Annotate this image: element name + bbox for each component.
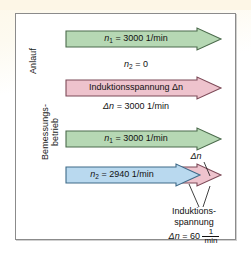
delta-n-anlauf-symbol: Δn (103, 101, 114, 111)
figure-frame: Anlauf n1 = 3000 1/min n2 = 0 Induktions… (15, 13, 236, 240)
delta-n-formula-unit: 1 min (202, 228, 219, 246)
delta-n-formula: Δn = 60 1 min (152, 228, 236, 246)
delta-n-formula-unit-denominator: min (202, 237, 219, 245)
n2-arrow-bemessung-label: n2 = 2940 1/min (66, 169, 178, 179)
n1-equals-anlauf: = (115, 33, 120, 43)
figure-page: Anlauf n1 = 3000 1/min n2 = 0 Induktions… (0, 0, 251, 255)
n2-zero-equals: = (135, 59, 140, 69)
n2-zero-text: n2 = 0 (66, 59, 206, 69)
delta-n-anlauf-equals: = (117, 101, 122, 111)
n1-equals-bemessung: = (115, 133, 120, 143)
induktionsspannung-callout-line1: Induktions- (154, 206, 234, 216)
delta-n-formula-symbol: Δn (169, 231, 180, 241)
section-label-bemessungsbetrieb-line2: betrieb (50, 95, 60, 169)
n1-subscript-anlauf: 1 (109, 37, 113, 44)
n1-value-bemessung: 3000 1/min (123, 133, 168, 143)
n1-value-anlauf: 3000 1/min (123, 33, 168, 43)
n2-subscript-bemessung: 2 (95, 173, 99, 180)
page-top-band (0, 0, 251, 10)
n1-arrow-bemessung-label: n1 = 3000 1/min (66, 133, 206, 143)
induktionsspannung-callout-line2: spannung (154, 217, 234, 227)
section-label-anlauf: Anlauf (28, 31, 38, 91)
induktionsspannung-arrow-anlauf-label: Induktionsspannung Δn (66, 82, 206, 92)
section-label-bemessungsbetrieb: Bemessungs- betrieb (40, 95, 60, 169)
n2-equals-bemessung: = (101, 169, 106, 179)
delta-n-formula-value: 60 (190, 231, 200, 241)
diagram-canvas: Anlauf n1 = 3000 1/min n2 = 0 Induktions… (16, 14, 235, 239)
n2-zero-subscript: 2 (129, 63, 133, 70)
delta-n-anlauf-caption: Δn = 3000 1/min (66, 101, 206, 111)
n2-zero-value: 0 (143, 59, 148, 69)
delta-n-anlauf-value: 3000 1/min (124, 101, 169, 111)
delta-n-formula-equals: = (182, 231, 187, 241)
n1-subscript-bemessung: 1 (109, 137, 113, 144)
n2-value-bemessung: 2940 1/min (109, 169, 154, 179)
section-label-bemessungsbetrieb-line1: Bemessungs- (40, 104, 50, 160)
n1-arrow-anlauf-label: n1 = 3000 1/min (66, 33, 206, 43)
